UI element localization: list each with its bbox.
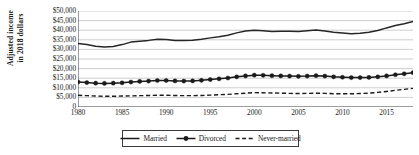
series-marker — [120, 81, 124, 85]
y-axis-title-line-1: Adjusted income — [6, 10, 16, 66]
legend-label: Married — [143, 135, 166, 143]
legend-entry-divorced[interactable]: Divorced — [176, 134, 226, 143]
y-axis-tick-label: $20,000 — [26, 65, 76, 72]
series-marker — [243, 74, 247, 78]
series-line — [78, 21, 413, 47]
y-axis-tick-label: $45,000 — [26, 17, 76, 24]
plot-area — [78, 11, 413, 107]
series-never-married — [78, 88, 413, 96]
x-axis-tick-labels: 19801985199019952000200520102015 — [0, 107, 419, 121]
x-axis-tick-label: 1990 — [159, 109, 173, 117]
legend-entry-never-married[interactable]: Never-married — [235, 134, 301, 143]
series-marker — [402, 72, 406, 76]
series-marker — [191, 79, 195, 83]
series-marker — [358, 76, 362, 80]
series-marker — [155, 78, 159, 82]
series-marker — [305, 74, 309, 78]
legend-swatch — [235, 134, 255, 143]
y-axis-tick-label: $5,000 — [26, 94, 76, 101]
legend-entry-married[interactable]: Married — [120, 134, 166, 143]
series-marker — [252, 73, 256, 77]
series-marker — [111, 81, 115, 85]
y-axis-tick-labels: $50,000$45,000$40,000$35,000$30,000$25,0… — [26, 0, 76, 155]
y-axis-title-line-2: in 2018 dollars — [16, 13, 26, 62]
x-axis-tick-label: 2010 — [335, 109, 349, 117]
series-marker — [384, 74, 388, 78]
legend-marker — [183, 136, 188, 141]
series-marker — [411, 71, 413, 75]
chart-legend: MarriedDivorcedNever-married — [122, 130, 299, 147]
x-axis-tick-label: 1980 — [71, 109, 85, 117]
series-marker — [102, 81, 106, 85]
series-marker — [332, 75, 336, 79]
series-marker — [182, 79, 186, 83]
series-marker — [270, 74, 274, 78]
y-axis-tick-label: $30,000 — [26, 46, 76, 53]
series-marker — [323, 74, 327, 78]
plot-svg — [78, 11, 413, 107]
y-axis-tick-label: $15,000 — [26, 75, 76, 82]
gridlines — [78, 11, 413, 97]
series-marker — [235, 75, 239, 79]
series-marker — [393, 73, 397, 77]
y-axis-tick-label: $35,000 — [26, 36, 76, 43]
x-axis-tick-label: 2015 — [379, 109, 393, 117]
series-marker — [129, 80, 133, 84]
series-married — [78, 21, 413, 47]
series-marker — [296, 74, 300, 78]
series-marker — [367, 75, 371, 79]
series-marker — [94, 81, 98, 85]
series-marker — [376, 75, 380, 79]
legend-label: Divorced — [199, 135, 226, 143]
series-marker — [226, 76, 230, 80]
y-axis-tick-label: $40,000 — [26, 27, 76, 34]
series-marker — [208, 77, 212, 81]
series-marker — [85, 81, 89, 85]
series-marker — [349, 76, 353, 80]
legend-label: Never-married — [258, 135, 301, 143]
series-marker — [314, 74, 318, 78]
x-axis-tick-label: 1985 — [115, 109, 129, 117]
x-axis-tick-label: 1995 — [203, 109, 217, 117]
series-line — [78, 88, 413, 96]
series-marker — [138, 79, 142, 83]
y-axis-tick-label: $10,000 — [26, 84, 76, 91]
series-marker — [146, 79, 150, 83]
legend-swatch — [120, 134, 140, 143]
y-axis-tick-label: $50,000 — [26, 7, 76, 14]
y-axis-tick-label: $25,000 — [26, 55, 76, 62]
series-marker — [340, 75, 344, 79]
series-marker — [287, 74, 291, 78]
income-by-marital-status-chart: Adjusted income in 2018 dollars $50,000$… — [0, 0, 419, 155]
series-marker — [217, 77, 221, 81]
x-axis-tick-label: 2005 — [291, 109, 305, 117]
series-marker — [173, 79, 177, 83]
legend-swatch — [176, 134, 196, 143]
series-marker — [164, 78, 168, 82]
series-marker — [78, 80, 80, 84]
series-marker — [199, 78, 203, 82]
series-marker — [279, 74, 283, 78]
x-axis-tick-label: 2000 — [247, 109, 261, 117]
series-marker — [261, 73, 265, 77]
